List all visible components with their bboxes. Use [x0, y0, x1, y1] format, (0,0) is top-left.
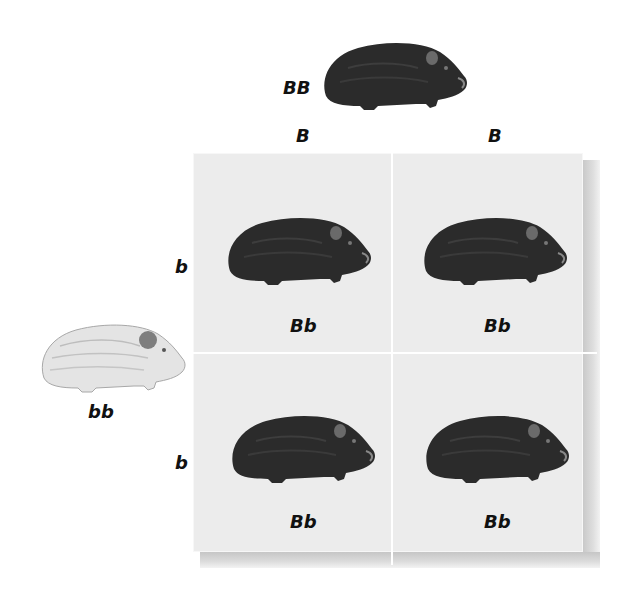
- parent-top-guinea-pig-black: [318, 38, 468, 114]
- parent-top-genotype: BB: [283, 79, 310, 97]
- cell-genotype: Bb: [290, 317, 317, 335]
- parent-left-guinea-pig-white: [36, 320, 186, 396]
- cell-genotype: Bb: [484, 513, 511, 531]
- offspring-guinea-pig-black: [418, 213, 568, 289]
- grid-shadow-right: [583, 160, 600, 568]
- column-allele-1: B: [296, 127, 310, 145]
- column-allele-2: B: [488, 127, 502, 145]
- grid-shadow-bottom: [200, 552, 600, 568]
- cell-genotype: Bb: [484, 317, 511, 335]
- offspring-guinea-pig-black: [222, 213, 372, 289]
- offspring-guinea-pig-black: [226, 411, 376, 487]
- parent-left-genotype: bb: [88, 403, 114, 421]
- cell-genotype: Bb: [290, 513, 317, 531]
- row-allele-1: b: [175, 258, 188, 276]
- row-allele-2: b: [175, 454, 188, 472]
- offspring-guinea-pig-black: [420, 411, 570, 487]
- grid-divider-vertical: [391, 153, 393, 565]
- grid-divider-horizontal: [193, 352, 597, 354]
